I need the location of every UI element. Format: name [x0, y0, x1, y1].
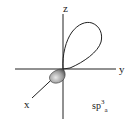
orbital-label-sup: 3	[101, 98, 105, 106]
orbital-label: sp3a	[92, 98, 108, 114]
large-lobe	[63, 22, 102, 69]
z-axis-label: z	[63, 2, 68, 14]
orbital-label-base: sp	[92, 100, 101, 111]
orbital-label-sub: a	[104, 106, 108, 114]
y-axis-label: y	[119, 63, 125, 75]
sp3-orbital-diagram: z y x sp3a	[0, 0, 137, 126]
x-axis-label: x	[24, 98, 30, 110]
